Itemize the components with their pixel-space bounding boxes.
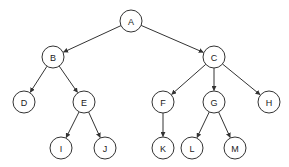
edge-c-f xyxy=(172,64,206,94)
edge-g-m xyxy=(219,112,231,138)
node-label: H xyxy=(266,98,273,108)
edge-e-j xyxy=(89,112,101,138)
node-e: E xyxy=(73,91,95,113)
tree-diagram: ABCDEFGHIJKLM xyxy=(0,0,289,167)
node-g: G xyxy=(203,91,225,113)
node-label: B xyxy=(50,53,56,63)
node-label: I xyxy=(60,144,63,154)
node-k: K xyxy=(152,137,174,159)
edge-e-i xyxy=(66,112,79,138)
node-label: D xyxy=(21,98,28,108)
edge-a-b xyxy=(63,26,121,53)
edge-b-e xyxy=(59,66,77,92)
node-label: M xyxy=(231,144,239,154)
node-l: L xyxy=(181,137,203,159)
edge-b-d xyxy=(30,66,47,92)
node-a: A xyxy=(120,10,142,32)
node-label: L xyxy=(189,144,194,154)
node-b: B xyxy=(42,46,64,68)
node-label: G xyxy=(210,98,217,108)
node-label: A xyxy=(128,17,134,27)
nodes-layer: ABCDEFGHIJKLM xyxy=(13,10,280,159)
node-h: H xyxy=(258,91,280,113)
node-m: M xyxy=(224,137,246,159)
node-label: J xyxy=(103,144,108,154)
node-i: I xyxy=(50,137,72,159)
edges-layer xyxy=(30,25,260,137)
node-label: C xyxy=(211,53,218,63)
node-d: D xyxy=(13,91,35,113)
node-label: K xyxy=(160,144,166,154)
node-f: F xyxy=(152,91,174,113)
node-label: E xyxy=(81,98,87,108)
edge-g-l xyxy=(197,112,209,138)
edge-a-c xyxy=(141,25,203,52)
node-j: J xyxy=(94,137,116,159)
node-c: C xyxy=(203,46,225,68)
edge-c-h xyxy=(223,64,261,95)
node-label: F xyxy=(160,98,166,108)
